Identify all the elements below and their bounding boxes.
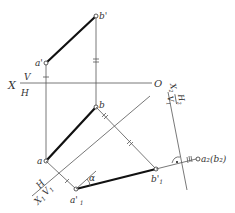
- label-b-prime: b': [99, 11, 107, 21]
- tick-mark: [191, 156, 192, 162]
- point-a2-b2: [196, 157, 200, 161]
- label-h: H: [20, 88, 29, 98]
- projector-a-to-a1: [46, 161, 76, 189]
- segment-a-prime-b-prime: [46, 16, 96, 63]
- x2-axis: [168, 92, 187, 190]
- label-alpha: α: [89, 173, 95, 183]
- point-a-prime: [44, 61, 48, 65]
- label-b: b: [99, 100, 105, 110]
- label-a1-prime: a'1: [70, 195, 84, 206]
- label-b1-prime: b'1: [151, 174, 163, 185]
- label-a-prime: a': [35, 58, 43, 68]
- label-v: V: [24, 72, 32, 82]
- segment-a-b: [46, 107, 96, 161]
- right-angle-dot: [176, 161, 178, 163]
- projection-diagram: X V H O b' a' b a H X1V1 a'1 b'1 α X2 H2: [0, 0, 235, 213]
- segment-a1-b1-true-length: [76, 169, 156, 189]
- right-angle-arc: [172, 157, 180, 163]
- tick-mark: [187, 157, 188, 163]
- point-b-prime: [94, 14, 98, 18]
- svg-text:X1V1: X1V1: [31, 183, 55, 208]
- label-x: X: [7, 79, 17, 92]
- svg-text:X2: X2: [167, 82, 179, 93]
- label-o: O: [154, 78, 162, 89]
- svg-text:V1: V1: [164, 95, 175, 106]
- label-x2-h2-v1: X2 H2 V1: [162, 81, 187, 107]
- label-a: a: [37, 156, 42, 166]
- label-a2-b2: a₂(b₂): [201, 154, 227, 164]
- label-x1-v1: X1V1: [31, 183, 55, 208]
